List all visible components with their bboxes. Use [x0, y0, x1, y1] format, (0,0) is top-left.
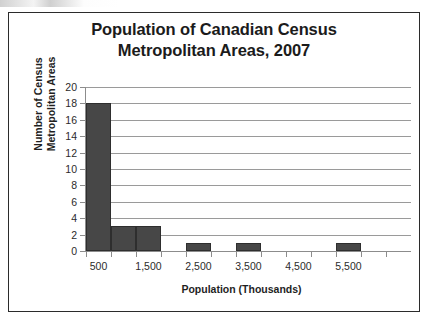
x-axis-tick-label: 5,500 — [319, 260, 379, 272]
x-axis-title: Population (Thousands) — [69, 283, 414, 295]
bars-layer — [86, 87, 411, 251]
bar — [236, 243, 261, 251]
x-axis-tick — [136, 252, 137, 257]
bar — [186, 243, 211, 251]
x-axis-tick — [111, 252, 112, 257]
y-axis-tick — [80, 235, 85, 236]
y-axis-tick-label: 16 — [37, 114, 77, 126]
x-axis-tick — [311, 252, 312, 257]
y-axis-tick — [80, 103, 85, 104]
bar — [111, 226, 136, 251]
y-axis-tick — [80, 218, 85, 219]
y-axis-tick-label: 20 — [37, 81, 77, 93]
chart-figure-frame: Population of Canadian Census Metropolit… — [8, 12, 420, 312]
y-axis-tick-label: 0 — [37, 245, 77, 257]
bar — [136, 226, 161, 251]
y-axis-tick-label: 8 — [37, 179, 77, 191]
y-axis-tick-label: 10 — [37, 163, 77, 175]
bar — [86, 103, 111, 251]
plot-wrapper: 02468101214161820 5001,5002,5003,5004,50… — [9, 13, 419, 311]
x-axis-tick — [211, 252, 212, 257]
x-axis-tick — [336, 252, 337, 257]
y-axis-tick — [80, 202, 85, 203]
scan-edge-artifact — [0, 0, 120, 7]
y-axis-tick — [80, 120, 85, 121]
x-axis-tick — [161, 252, 162, 257]
x-axis-tick — [361, 252, 362, 257]
x-axis-baseline — [86, 251, 411, 252]
y-axis-tick — [80, 87, 85, 88]
y-axis-tick-label: 18 — [37, 97, 77, 109]
y-axis-tick — [80, 185, 85, 186]
bar — [336, 243, 361, 251]
y-axis-tick-label: 6 — [37, 196, 77, 208]
y-axis-tick-label: 2 — [37, 229, 77, 241]
y-axis-tick — [80, 136, 85, 137]
x-axis-tick — [86, 252, 87, 257]
x-axis-tick — [386, 252, 387, 257]
y-axis-tick — [80, 169, 85, 170]
x-axis-tick — [286, 252, 287, 257]
x-axis-tick — [261, 252, 262, 257]
y-axis-tick — [80, 153, 85, 154]
plot-area — [86, 87, 411, 251]
x-axis-tick — [236, 252, 237, 257]
y-axis-tick-label: 12 — [37, 147, 77, 159]
y-axis-tick — [80, 251, 85, 252]
y-axis-tick-label: 4 — [37, 212, 77, 224]
y-axis-tick-label: 14 — [37, 130, 77, 142]
x-axis-tick — [186, 252, 187, 257]
